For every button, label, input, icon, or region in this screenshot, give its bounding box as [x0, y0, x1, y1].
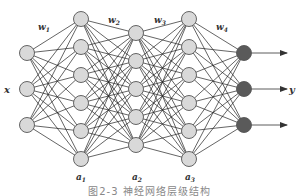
- svg-text:a1: a1: [76, 172, 86, 183]
- figure-caption: 图2-3 神经网络层级结构: [0, 186, 299, 196]
- hidden-3-node: [182, 68, 197, 83]
- edge: [81, 33, 136, 103]
- output-label: y: [288, 84, 296, 95]
- neuron-nodes: [20, 12, 252, 167]
- edge: [27, 47, 81, 125]
- svg-text:a2: a2: [132, 172, 142, 183]
- hidden-1-node: [74, 124, 89, 139]
- layer-label-a3: a3: [185, 172, 195, 183]
- hidden-3-node: [182, 152, 197, 167]
- edge: [81, 61, 136, 159]
- weight-label-w3: w3: [154, 15, 166, 26]
- hidden-2-node: [129, 82, 144, 97]
- input-node: [20, 82, 35, 97]
- edge: [189, 53, 244, 131]
- hidden-2-node: [129, 110, 144, 125]
- output-node: [237, 46, 252, 61]
- edge: [27, 19, 81, 89]
- edge: [27, 75, 81, 89]
- edge: [136, 19, 189, 117]
- edge: [27, 53, 81, 131]
- svg-text:w2: w2: [108, 15, 120, 26]
- edge: [189, 75, 244, 89]
- hidden-2-node: [129, 26, 144, 41]
- output-node: [237, 118, 252, 133]
- svg-text:w4: w4: [216, 22, 228, 33]
- hidden-1-node: [74, 96, 89, 111]
- edge: [136, 19, 189, 145]
- edge: [27, 89, 81, 159]
- input-node: [20, 46, 35, 61]
- edge: [136, 131, 189, 145]
- hidden-1-node: [74, 40, 89, 55]
- edge: [189, 89, 244, 103]
- hidden-1-node: [74, 68, 89, 83]
- output-arrows: [252, 53, 288, 125]
- edge: [189, 89, 244, 159]
- neural-network-diagram: x y w1 w2 w3 w4 a1 a2 a3: [0, 0, 299, 196]
- edge: [81, 33, 136, 131]
- svg-text:w1: w1: [38, 22, 50, 33]
- edge: [81, 145, 136, 159]
- svg-text:w3: w3: [154, 15, 166, 26]
- hidden-2-node: [129, 54, 144, 69]
- input-label: x: [3, 84, 11, 95]
- edge: [136, 145, 189, 159]
- output-node: [237, 82, 252, 97]
- edge: [136, 19, 189, 89]
- weight-label-w4: w4: [216, 22, 228, 33]
- edge: [136, 75, 189, 145]
- edge: [81, 89, 136, 159]
- hidden-1-node: [74, 152, 89, 167]
- weight-label-w2: w2: [108, 15, 120, 26]
- edge: [136, 47, 189, 145]
- svg-text:a3: a3: [185, 172, 195, 183]
- layer-label-a1: a1: [76, 172, 86, 183]
- hidden-1-node: [74, 12, 89, 27]
- input-node: [20, 118, 35, 133]
- edge: [81, 117, 136, 159]
- edge: [189, 47, 244, 125]
- edge: [81, 33, 136, 47]
- edge: [81, 33, 136, 159]
- hidden-3-node: [182, 124, 197, 139]
- hidden-3-node: [182, 12, 197, 27]
- hidden-2-node: [129, 138, 144, 153]
- edge: [27, 89, 81, 103]
- hidden-3-node: [182, 96, 197, 111]
- layer-label-a2: a2: [132, 172, 142, 183]
- weight-label-w1: w1: [38, 22, 50, 33]
- hidden-3-node: [182, 40, 197, 55]
